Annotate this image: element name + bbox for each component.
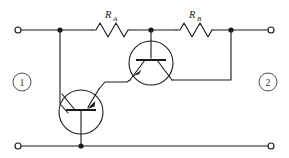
terminals [15,27,274,149]
junction-dot-top-right [228,27,233,32]
terminal-bottom-right [268,143,274,149]
feedback-loop-wires [172,30,231,80]
resistor-ra-subscript: A [112,15,118,23]
port-1-number: 1 [20,77,25,88]
resistor-rb-zigzag [176,23,212,37]
junction-dot-top-mid [148,27,153,32]
resistor-rb-label: R [188,9,196,20]
port-label-1: 1 [13,73,31,91]
resistor-rb-subscript: B [197,15,202,23]
junction-dots [57,27,233,148]
transistor-lower [59,89,103,146]
transistor-upper-lower-right-lead [157,60,172,80]
resistor-rb: R B [176,9,212,37]
circuit-schematic-canvas: R A R B [0,0,289,158]
circuit-diagram-figure: R A R B [0,0,289,158]
wire-q-upper-to-top-right-node [172,30,231,80]
resistor-ra-zigzag [92,23,128,37]
resistor-ra: R A [92,9,128,37]
wire-q-lower-emitter-to-q-upper-emitter [99,80,130,89]
junction-dot-top-left [57,27,62,32]
terminal-bottom-left [15,143,21,149]
transistor-lower-collector-lead [62,94,75,110]
port-label-2: 2 [259,73,277,91]
resistor-ra-label: R [104,9,112,20]
interstage-coupling-wires [99,80,130,89]
terminal-top-right [268,27,274,33]
transistor-upper-emitter-lead-ext [130,76,133,80]
terminal-top-left [15,27,21,33]
junction-dot-bottom-mid [78,143,83,148]
port-2-number: 2 [266,77,271,88]
transistor-upper [129,30,173,85]
